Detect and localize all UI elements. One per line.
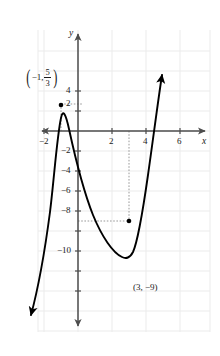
label-x-value: −1, bbox=[32, 73, 44, 82]
graph-figure: −2 2 4 6 4 2 −2 −4 −6 −8 −10 y x ( −1, 5… bbox=[0, 0, 220, 356]
y-tick-label-neg4: −4 bbox=[61, 166, 71, 175]
grid-lines bbox=[38, 30, 210, 332]
y-tick-label-neg6: −6 bbox=[61, 186, 71, 195]
local-min-point-label: (3, −9) bbox=[133, 283, 158, 292]
fraction-numerator: 5 bbox=[44, 68, 50, 77]
label-close-paren: ) bbox=[53, 69, 57, 86]
x-tick-label-2: 2 bbox=[109, 137, 114, 146]
local-max-point-marker bbox=[59, 103, 64, 108]
y-tick-label-neg8: −8 bbox=[61, 206, 71, 215]
y-tick-label-2: 2 bbox=[66, 99, 71, 108]
cubic-graph-plot bbox=[0, 0, 220, 356]
axes bbox=[42, 34, 205, 326]
y-axis-label: y bbox=[69, 29, 73, 39]
x-tick-label-6: 6 bbox=[177, 137, 182, 146]
fraction-denominator: 3 bbox=[44, 78, 50, 87]
local-max-point-label: ( −1, 5 3 ) bbox=[25, 68, 58, 87]
x-axis-label: x bbox=[202, 137, 206, 147]
y-tick-label-neg2: −2 bbox=[61, 146, 71, 155]
y-tick-label-neg10: −10 bbox=[57, 246, 71, 255]
x-tick-label-4: 4 bbox=[143, 137, 148, 146]
x-tick-label-neg2: −2 bbox=[39, 137, 49, 146]
y-tick-label-4: 4 bbox=[66, 86, 71, 95]
label-open-paren: ( bbox=[26, 69, 30, 86]
local-min-point-marker bbox=[127, 219, 132, 224]
label-fraction: 5 3 bbox=[44, 68, 51, 87]
guide-lines bbox=[61, 104, 129, 221]
